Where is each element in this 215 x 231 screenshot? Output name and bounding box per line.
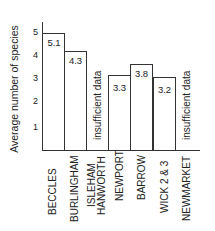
bar-value-barrow: 3.8	[131, 68, 152, 79]
x-label-barrow: BARROW	[137, 155, 147, 200]
y-tick-3: 3	[30, 73, 38, 83]
x-label-newmarket: NEWMARKET	[182, 156, 192, 221]
x-label-newport: NEWPORT	[115, 150, 125, 201]
x-label-wick: WICK 2 & 3	[160, 161, 170, 213]
insufficient-data-isleham: insufficient data	[92, 71, 103, 140]
y-tick-1: 1	[30, 122, 38, 132]
y-tick-2: 2	[30, 96, 38, 106]
bar-value-burlingham: 4.3	[65, 55, 86, 66]
x-label-beccles: BECCLES	[48, 168, 58, 215]
y-tick-5: 5	[30, 27, 38, 37]
bar-chart: Average number of species 1 2 3 4 5 5.1 …	[0, 0, 215, 231]
x-label-burlingham: BURLINGHAM	[70, 155, 80, 222]
y-tick-4: 4	[30, 50, 38, 60]
bar-value-newport: 3.3	[109, 82, 130, 93]
x-label-hanworth: HANWORTH	[97, 156, 107, 215]
bar-beccles	[42, 33, 65, 150]
bar-value-beccles: 5.1	[44, 37, 64, 48]
bar-value-wick: 3.2	[154, 84, 175, 95]
insufficient-data-newmarket: insufficient data	[181, 71, 192, 140]
y-axis-label: Average number of species	[8, 24, 22, 154]
y-axis	[42, 22, 43, 150]
